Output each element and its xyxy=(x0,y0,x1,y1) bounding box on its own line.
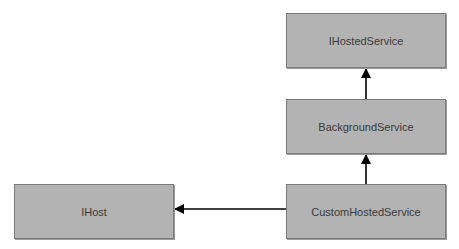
node-label: IHost xyxy=(81,206,107,218)
node-label: IHostedService xyxy=(329,35,404,47)
node-label: CustomHostedService xyxy=(311,206,420,218)
node-ihost: IHost xyxy=(14,184,174,239)
node-label: BackgroundService xyxy=(318,121,413,133)
node-backgroundservice: BackgroundService xyxy=(286,99,446,154)
node-customhostedservice: CustomHostedService xyxy=(286,184,446,239)
node-ihostedservice: IHostedService xyxy=(286,13,446,68)
